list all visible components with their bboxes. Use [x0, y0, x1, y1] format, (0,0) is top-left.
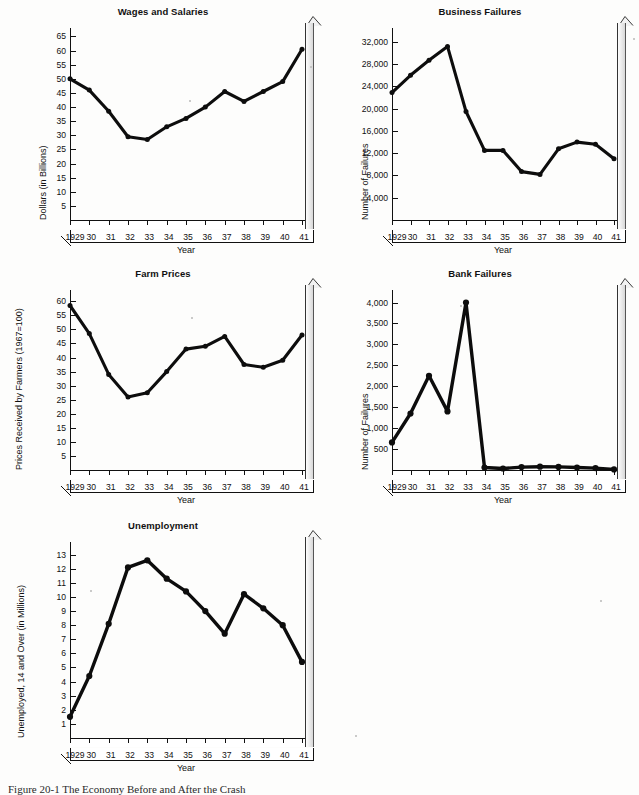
- y-axis-tick-label: 60: [56, 297, 66, 306]
- x-axis-tick-label: 37: [222, 751, 232, 760]
- x-axis-tick-label: 32: [125, 751, 135, 760]
- data-point: [501, 148, 506, 153]
- x-axis-tick-label: 39: [261, 233, 271, 242]
- data-point: [164, 369, 169, 374]
- x-axis-tick-label: 35: [183, 483, 193, 492]
- data-point: [280, 622, 286, 628]
- x-axis-tick-label: 36: [203, 483, 213, 492]
- x-axis-tick-label: 40: [280, 233, 290, 242]
- x-axis-tick-label: 30: [408, 233, 418, 242]
- x-axis-tick-label: 31: [426, 233, 436, 242]
- data-point: [203, 105, 208, 110]
- data-point: [125, 564, 131, 570]
- y-axis-tick-label: 25: [56, 395, 66, 404]
- scan-speck: [191, 317, 193, 319]
- y-axis-tick-label: 35: [56, 117, 66, 126]
- data-point: [574, 464, 580, 470]
- y-axis-tick-label: 16,000: [362, 127, 388, 136]
- y-axis-tick-label: 45: [56, 339, 66, 348]
- x-axis-tick-label: 38: [556, 483, 566, 492]
- x-axis-tick-label: 35: [183, 751, 193, 760]
- data-point: [426, 373, 432, 379]
- y-axis-tick-label: 11: [57, 579, 66, 588]
- y-axis-tick-label: 50: [56, 325, 66, 334]
- x-axis-tick-label: 39: [261, 483, 271, 492]
- data-point: [126, 134, 131, 139]
- x-axis-tick-label: 34: [482, 233, 492, 242]
- x-axis-tick-label: 31: [106, 751, 116, 760]
- y-axis-title: Number of Failures: [360, 143, 370, 220]
- data-point: [222, 631, 228, 637]
- y-axis-tick-label: 5: [61, 663, 66, 672]
- x-axis-tick-label: 1929: [65, 233, 84, 242]
- x-axis-tick-label: 32: [445, 233, 455, 242]
- chart-panel-unemployment: Unemployment12345678910111213Unemployed,…: [8, 520, 318, 788]
- data-point: [593, 142, 598, 147]
- x-axis-tick-label: 41: [299, 233, 309, 242]
- data-point: [261, 365, 266, 370]
- scan-speck: [600, 600, 602, 602]
- plot-area: 5101520253035404550556065Dollars (in Bil…: [70, 28, 302, 220]
- data-point: [481, 464, 487, 470]
- x-axis-tick-label: 39: [574, 233, 584, 242]
- data-point: [555, 464, 561, 470]
- x-axis-tick-label: 41: [611, 233, 621, 242]
- x-axis-tick-label: 35: [500, 483, 510, 492]
- plot-area: 4,0008,00012,00016,00020,00024,00028,000…: [392, 28, 614, 220]
- data-series: [392, 290, 634, 476]
- x-axis-tick-label: 40: [280, 483, 290, 492]
- data-point: [519, 169, 524, 174]
- x-axis-title: Year: [70, 245, 302, 255]
- y-axis-tick-label: 60: [56, 46, 66, 55]
- data-series: [392, 28, 634, 226]
- data-point: [300, 333, 305, 338]
- data-series: [70, 28, 322, 226]
- chart-title: Farm Prices: [8, 268, 318, 279]
- chart-panel-bank-failures: Bank Failures5001,0001,5002,0002,5003,00…: [326, 268, 634, 518]
- x-axis-tick-label: 1929: [387, 233, 406, 242]
- data-point: [145, 137, 150, 142]
- data-point: [427, 58, 432, 63]
- x-axis-tick-label: 36: [519, 483, 529, 492]
- x-axis-tick-label: 33: [145, 751, 155, 760]
- x-axis-tick-label: 38: [241, 751, 251, 760]
- data-point: [299, 659, 305, 665]
- data-point: [106, 621, 112, 627]
- data-point: [280, 358, 285, 363]
- y-axis-tick-label: 20: [56, 159, 66, 168]
- x-axis-tick-label: 31: [106, 233, 116, 242]
- plot-area: 5001,0001,5002,0002,5003,0003,5004,000Nu…: [392, 290, 614, 470]
- y-axis-tick-label: 1: [61, 720, 66, 729]
- x-axis-tick-label: 40: [593, 233, 603, 242]
- chart-title: Bank Failures: [326, 268, 634, 279]
- x-axis-tick-label: 31: [106, 483, 116, 492]
- y-axis-tick-label: 15: [56, 424, 66, 433]
- y-axis-tick-label: 5: [61, 202, 66, 211]
- scan-speck: [355, 735, 357, 737]
- y-axis-tick-label: 50: [56, 75, 66, 84]
- x-axis-tick-label: 33: [145, 483, 155, 492]
- data-point: [592, 465, 598, 471]
- x-axis-tick-label: 38: [241, 483, 251, 492]
- x-axis-tick-label: 37: [222, 483, 232, 492]
- x-axis-tick-label: 31: [426, 483, 436, 492]
- y-axis-tick-label: 35: [56, 367, 66, 376]
- data-point: [242, 99, 247, 104]
- x-axis-tick-label: 41: [611, 483, 621, 492]
- data-point: [408, 73, 413, 78]
- y-axis-tick-label: 10: [56, 593, 66, 602]
- data-point: [222, 89, 227, 94]
- y-axis-tick-label: 10: [56, 438, 66, 447]
- y-axis-tick-label: 3,000: [366, 340, 388, 349]
- y-axis-tick-label: 45: [56, 89, 66, 98]
- x-axis-tick-label: 40: [593, 483, 603, 492]
- scan-speck: [633, 38, 635, 40]
- y-axis-tick-label: 25: [56, 145, 66, 154]
- x-axis-tick-label: 33: [463, 233, 473, 242]
- x-axis-tick-label: 37: [537, 233, 547, 242]
- scan-speck: [189, 100, 191, 102]
- data-point: [202, 608, 208, 614]
- y-axis-tick-label: 20: [56, 409, 66, 418]
- x-axis-tick-label: 35: [500, 233, 510, 242]
- x-axis-tick-label: 36: [203, 233, 213, 242]
